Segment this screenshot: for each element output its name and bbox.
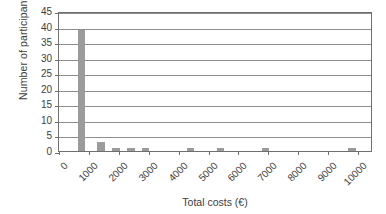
bar: [97, 142, 104, 151]
gridline: [59, 122, 371, 123]
gridline: [59, 106, 371, 107]
gridline: [59, 13, 371, 14]
y-tick-mark: [55, 106, 59, 107]
gridline: [59, 137, 371, 138]
y-tick-label: 0: [28, 147, 52, 157]
y-tick-label: 20: [28, 85, 52, 95]
bar: [217, 148, 224, 151]
bar: [127, 148, 134, 151]
bar: [78, 30, 85, 151]
y-tick-label: 15: [28, 100, 52, 110]
gridline: [59, 75, 371, 76]
gridline: [59, 44, 371, 45]
bar: [187, 148, 194, 151]
y-tick-label: 45: [28, 7, 52, 17]
y-tick-mark: [55, 60, 59, 61]
gridline: [59, 60, 371, 61]
y-tick-label: 35: [28, 38, 52, 48]
histogram-chart: Number of participants 05101520253035404…: [0, 0, 386, 214]
plot-area: [58, 12, 372, 152]
y-tick-mark: [55, 137, 59, 138]
y-tick-mark: [55, 75, 59, 76]
y-tick-mark: [55, 91, 59, 92]
gridline: [59, 29, 371, 30]
y-tick-mark: [55, 122, 59, 123]
y-tick-label: 25: [28, 69, 52, 79]
x-axis-tick-labels: 0100020003000400050006000700080009000100…: [58, 152, 378, 196]
x-axis-title: Total costs (€): [58, 196, 372, 208]
y-tick-mark: [55, 29, 59, 30]
y-axis-tick-labels: 051015202530354045: [0, 12, 58, 152]
bar: [348, 148, 355, 151]
gridline: [59, 91, 371, 92]
y-tick-label: 30: [28, 54, 52, 64]
y-tick-label: 5: [28, 131, 52, 141]
y-tick-mark: [55, 13, 59, 14]
y-tick-label: 40: [28, 23, 52, 33]
y-tick-mark: [55, 44, 59, 45]
y-tick-label: 10: [28, 116, 52, 126]
